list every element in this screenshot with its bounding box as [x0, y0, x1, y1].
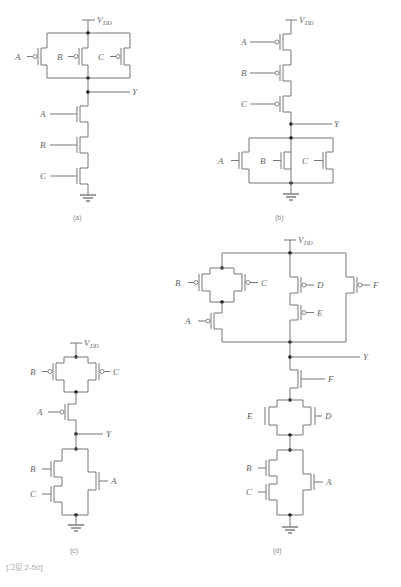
output-y-label: Y [363, 352, 369, 362]
nmos-c: C [30, 486, 62, 515]
cmos-figure: V DD A B [0, 0, 401, 587]
svg-text:A: A [36, 407, 43, 417]
pmos-b: B [57, 33, 88, 78]
svg-text:C: C [246, 487, 253, 497]
svg-text:C: C [30, 489, 37, 499]
circuit-label: (b) [275, 214, 284, 222]
nmos-a: A [303, 450, 332, 515]
svg-text:D: D [324, 411, 332, 421]
nmos-c: C [40, 168, 88, 184]
nmos-c: C [302, 138, 333, 183]
svg-text:A: A [217, 156, 224, 166]
circuit-label: (d) [273, 547, 282, 555]
nmos-b: B [30, 449, 62, 486]
svg-text:C: C [40, 171, 47, 181]
pmos-a: A [36, 392, 76, 434]
pmos-b: B [241, 65, 291, 81]
nmos-f: F [290, 370, 334, 400]
svg-text:B: B [241, 68, 247, 78]
svg-text:B: B [175, 278, 181, 288]
pmos-c: C [242, 274, 268, 291]
pmos-c: C [96, 363, 120, 380]
svg-text:DD: DD [89, 343, 99, 349]
nmos-a: A [88, 449, 117, 515]
output-y-label: Y [132, 87, 138, 97]
nmos-a: A [39, 106, 88, 122]
pmos-d: D [290, 253, 324, 305]
svg-text:C: C [302, 156, 309, 166]
nmos-b: B [246, 450, 277, 484]
svg-text:B: B [57, 52, 63, 62]
circuit-a: V DD A B [14, 15, 138, 222]
nmos-c: C [246, 484, 277, 515]
output-y-label: Y [106, 429, 112, 439]
svg-text:A: A [110, 476, 117, 486]
circuit-b: V DD A B C [217, 15, 340, 222]
svg-text:C: C [98, 52, 105, 62]
svg-text:DD: DD [304, 20, 314, 26]
pmos-f: F [346, 253, 379, 342]
svg-text:C: C [113, 367, 120, 377]
circuit-c: V DD B C A [30, 338, 120, 555]
pmos-b: B [175, 274, 202, 291]
svg-text:C: C [261, 278, 268, 288]
ground-icon [283, 194, 299, 200]
svg-text:A: A [325, 477, 332, 487]
nmos-b: B [40, 137, 88, 153]
pmos-a: A [240, 34, 291, 50]
circuit-d: V DD B C [175, 235, 379, 555]
pmos-a: A [14, 33, 47, 78]
svg-text:A: A [240, 37, 247, 47]
svg-text:B: B [30, 367, 36, 377]
pmos-a: A [184, 302, 222, 342]
svg-text:D: D [316, 280, 324, 290]
nmos-d: D [311, 407, 332, 425]
svg-text:F: F [372, 280, 379, 290]
svg-text:DD: DD [102, 20, 112, 26]
svg-text:B: B [30, 464, 36, 474]
circuit-label: (a) [73, 214, 82, 222]
pmos-c: C [241, 96, 291, 112]
circuit-label: (c) [70, 547, 78, 555]
svg-text:B: B [260, 156, 266, 166]
svg-text:A: A [14, 52, 21, 62]
output-y-label: Y [334, 119, 340, 129]
figure-caption: [그림 2-50] [6, 562, 43, 572]
ground-icon [68, 525, 84, 531]
nmos-b: B [260, 152, 291, 169]
svg-text:F: F [327, 374, 334, 384]
nmos-e: E [246, 407, 269, 425]
pmos-c: C [98, 33, 130, 78]
svg-text:C: C [241, 99, 248, 109]
svg-text:B: B [246, 463, 252, 473]
pmos-e: E [290, 305, 323, 342]
nmos-a: A [217, 138, 249, 183]
svg-text:DD: DD [303, 240, 313, 246]
ground-icon [80, 195, 96, 201]
ground-icon [282, 527, 298, 533]
svg-text:B: B [40, 140, 46, 150]
svg-text:A: A [184, 316, 191, 326]
svg-text:E: E [316, 308, 323, 318]
pmos-b: B [30, 363, 56, 380]
svg-text:A: A [39, 109, 46, 119]
svg-text:E: E [246, 411, 253, 421]
